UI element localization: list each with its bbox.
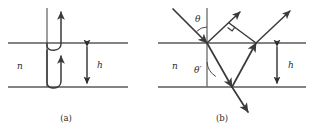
panel-b-theta-prime-arc <box>207 62 216 77</box>
panel-b-refracted-ray <box>207 43 232 87</box>
panel-a-medium-label: n <box>17 61 23 71</box>
panel-b-right-angle-mark <box>228 27 235 31</box>
panel-a: n h (a) <box>8 8 128 123</box>
panel-b: n h θ θ′ (b) <box>158 8 306 123</box>
panel-b-transmitted-ray <box>232 87 248 112</box>
panel-b-thickness-label: h <box>288 60 294 70</box>
panel-b-theta-arc <box>197 27 208 32</box>
panel-b-caption: (b) <box>216 113 228 123</box>
panel-b-reflected-ray-2 <box>256 11 290 43</box>
panel-b-refraction-angle-label: θ′ <box>194 65 201 75</box>
panel-a-caption: (a) <box>60 113 72 123</box>
panel-a-lower-ray <box>47 50 61 88</box>
panel-a-thickness-label: h <box>97 60 103 70</box>
panel-b-wavefront-segment <box>229 23 256 43</box>
optics-diagram-svg: n h (a) <box>0 0 313 135</box>
panel-b-internal-reflected-ray <box>232 43 256 87</box>
panel-b-medium-label: n <box>172 61 178 71</box>
figure-container: n h (a) <box>0 0 313 135</box>
panel-b-incident-ray <box>173 9 207 43</box>
panel-a-upper-ray <box>47 12 61 50</box>
panel-b-incidence-angle-label: θ <box>195 14 201 24</box>
